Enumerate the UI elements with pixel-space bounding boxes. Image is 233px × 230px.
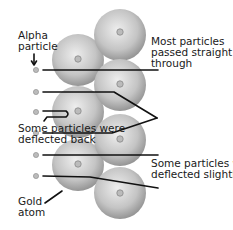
label-deflected-slightly: Some particles were deflected slightly: [151, 158, 233, 180]
gold-atom: [94, 59, 146, 111]
pointer-gold-atom: [45, 191, 62, 203]
label-gold-atom: Gold atom: [18, 196, 45, 218]
label-alpha-particle: Alpha particle: [18, 30, 58, 52]
label-deflected-back: Some particles were deflected back: [18, 123, 125, 145]
nucleus-icon: [75, 108, 81, 114]
label-passed-straight: Most particles passed straight through: [151, 36, 232, 69]
nucleus-icon: [117, 29, 123, 35]
gold-atom: [94, 9, 146, 61]
nucleus-icon: [117, 190, 123, 196]
nucleus-icon: [75, 161, 81, 167]
gold-atom: [94, 167, 146, 219]
nucleus-icon: [117, 81, 123, 87]
nucleus-icon: [75, 56, 81, 62]
